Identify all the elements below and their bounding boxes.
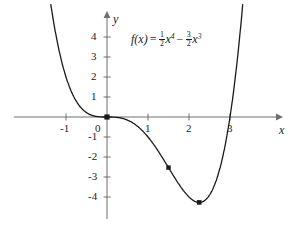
marked-point-origin [104,114,109,119]
formula-term1-exponent: 4 [171,32,175,41]
y-tick-label-4: 4 [91,31,97,42]
formula-operator: − [175,32,186,46]
y-tick-label-neg1: -1 [88,131,97,142]
marked-point-minimum [197,200,202,205]
formula-term2-fraction: 32 [186,31,192,49]
formula-lhs: f(x) [131,32,148,46]
formula-term2-numerator: 3 [186,31,192,39]
x-tick-label-1: 1 [145,123,151,134]
x-axis-arrow-icon [276,114,283,121]
y-tick-label-neg3: -3 [88,171,97,182]
y-tick-label-1: 1 [91,91,97,102]
function-formula: f(x)=12x4−32x3 [131,31,201,49]
x-tick-label-3: 3 [227,123,233,134]
formula-term2-exponent: 3 [198,32,202,41]
y-tick-label-2: 2 [91,71,97,82]
y-tick-label-neg4: -4 [88,191,97,202]
formula-equals: = [148,32,159,46]
y-axis-arrow-icon [104,11,111,18]
y-tick-label-neg2: -2 [88,151,97,162]
x-tick-label-neg1: -1 [60,123,69,134]
formula-term2-denominator: 2 [186,39,192,48]
y-tick-label-3: 3 [91,51,97,62]
marked-point-inflection [166,165,170,169]
function-graph-figure: f(x)=12x4−32x3 -1 0 1 2 3 4 3 2 1 -1 -2 … [0,0,295,231]
x-axis-label: x [279,124,284,136]
x-tick-label-2: 2 [186,123,192,134]
y-axis-label: y [113,13,118,25]
